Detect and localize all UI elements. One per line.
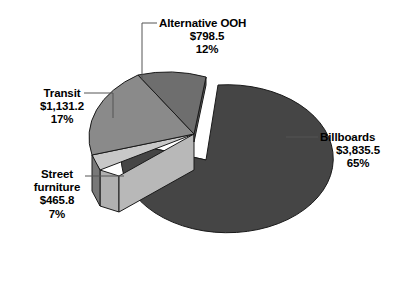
callout-transit-value: $1,131.2 [29,100,95,113]
callout-street-furniture-category-line1: Street [19,168,95,181]
callout-street-furniture-value: $465.8 [19,194,95,207]
callout-transit-category: Transit [29,87,95,100]
callout-transit: Transit $1,131.2 17% [29,87,95,127]
callout-alternative-ooh: Alternative OOH $798.5 12% [159,17,255,57]
callout-street-furniture: Street furniture $465.8 7% [19,168,95,221]
callout-alternative-ooh-category: Alternative OOH [159,17,255,30]
callout-street-furniture-category-line2: furniture [19,181,95,194]
leader-line-alternative-ooh [142,23,157,80]
pie-chart: Alternative OOH $798.5 12% Transit $1,13… [0,0,400,301]
callout-transit-percent: 17% [29,113,95,126]
callout-billboards-value: $3,835.5 [320,144,396,157]
callout-billboards-percent: 65% [320,157,396,170]
callout-billboards: Billboards $3,835.5 65% [320,131,396,171]
callout-street-furniture-percent: 7% [19,208,95,221]
callout-alternative-ooh-value: $798.5 [159,30,255,43]
callout-billboards-category: Billboards [320,131,396,144]
callout-alternative-ooh-percent: 12% [159,43,255,56]
